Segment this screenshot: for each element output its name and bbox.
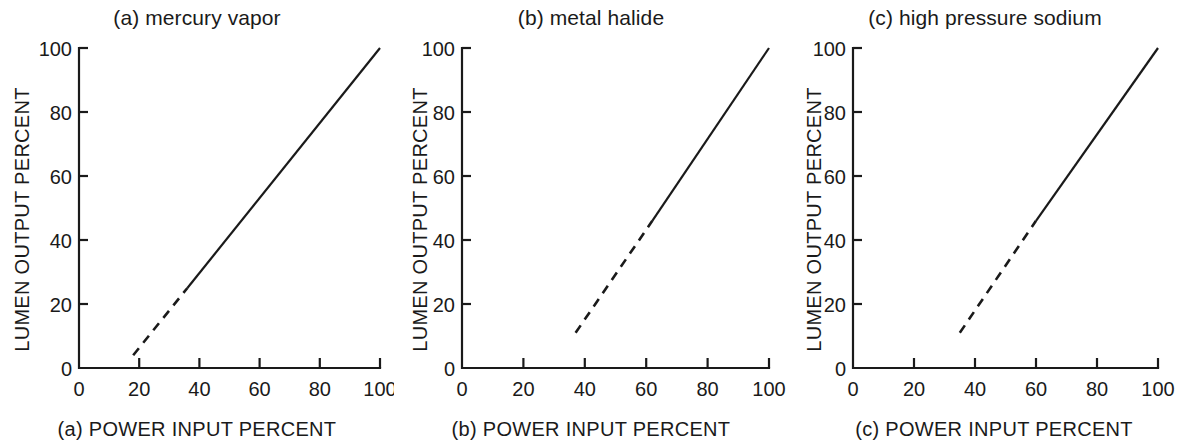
x-tick-label: 80 [696, 378, 718, 400]
y-tick-label: 0 [444, 358, 455, 380]
plot-area-a: 100 80 60 40 20 0 0 20 40 60 80 100 [0, 0, 394, 447]
x-tick-label: 40 [964, 378, 986, 400]
data-series-a [133, 48, 380, 355]
x-tick-label: 0 [847, 378, 858, 400]
y-axis-label-c: LUMEN OUTPUT PERCENT [803, 70, 826, 370]
y-tick-label: 100 [422, 38, 455, 60]
y-axis-label-a: LUMEN OUTPUT PERCENT [11, 70, 34, 370]
axes-a [79, 48, 380, 368]
series-line-solid [652, 48, 769, 221]
x-tick-label: 100 [752, 378, 785, 400]
plot-area-c: 100 80 60 40 20 0 0 20 40 60 80 100 [788, 0, 1182, 447]
y-tick-label: 80 [50, 102, 72, 124]
plot-svg-c: 100 80 60 40 20 0 0 20 40 60 80 100 [788, 0, 1182, 447]
lumen-output-figure: (a) mercury vapor [0, 0, 1182, 447]
x-tick-label: 0 [456, 378, 467, 400]
x-tick-marks-c [914, 358, 1158, 368]
x-tick-label: 80 [1086, 378, 1108, 400]
y-tick-label: 100 [813, 38, 846, 60]
plot-area-b: 100 80 60 40 20 0 0 20 40 60 80 100 [394, 0, 788, 447]
x-tick-label: 0 [73, 378, 84, 400]
y-tick-label: 40 [50, 230, 72, 252]
axes-b [462, 48, 769, 368]
axis-spines-b [462, 48, 769, 368]
x-axis-label-a: (a) POWER INPUT PERCENT [0, 418, 394, 441]
plot-svg-a: 100 80 60 40 20 0 0 20 40 60 80 100 [0, 0, 394, 447]
axis-spines-a [79, 48, 380, 368]
x-tick-label: 40 [188, 378, 210, 400]
y-tick-label: 20 [433, 294, 455, 316]
y-tick-label: 60 [50, 166, 72, 188]
x-tick-label: 20 [903, 378, 925, 400]
x-tick-marks-b [523, 358, 769, 368]
chart-panel-mercury-vapor: (a) mercury vapor [0, 0, 394, 447]
series-line-solid [187, 48, 380, 288]
tick-labels-c: 100 80 60 40 20 0 0 20 40 60 80 100 [813, 38, 1175, 400]
plot-svg-b: 100 80 60 40 20 0 0 20 40 60 80 100 [394, 0, 788, 447]
x-axis-label-c: (c) POWER INPUT PERCENT [788, 418, 1182, 441]
x-axis-label-b: (b) POWER INPUT PERCENT [394, 418, 788, 441]
x-tick-label: 40 [574, 378, 596, 400]
series-line-solid [1036, 48, 1158, 221]
chart-panel-high-pressure-sodium: (c) high pressure sodium [788, 0, 1182, 447]
axis-spines-c [853, 48, 1158, 368]
y-tick-label: 20 [824, 294, 846, 316]
x-tick-label: 20 [128, 378, 150, 400]
y-tick-marks-c [853, 48, 862, 304]
x-tick-label: 100 [363, 378, 394, 400]
y-axis-label-b: LUMEN OUTPUT PERCENT [409, 70, 432, 370]
tick-labels-b: 100 80 60 40 20 0 0 20 40 60 80 100 [422, 38, 786, 400]
y-tick-label: 40 [824, 230, 846, 252]
data-series-c [960, 48, 1158, 333]
y-tick-label: 0 [61, 358, 72, 380]
x-tick-label: 60 [248, 378, 270, 400]
chart-panel-metal-halide: (b) metal halide [394, 0, 788, 447]
y-tick-label: 80 [433, 102, 455, 124]
data-series-b [576, 48, 769, 333]
x-tick-label: 20 [512, 378, 534, 400]
tick-labels-a: 100 80 60 40 20 0 0 20 40 60 80 100 [39, 38, 394, 400]
series-line-dashed [960, 221, 1036, 333]
series-line-dashed [133, 288, 187, 355]
y-tick-label: 20 [50, 294, 72, 316]
y-tick-label: 40 [433, 230, 455, 252]
series-line-dashed [576, 221, 653, 333]
axes-c [853, 48, 1158, 368]
y-tick-label: 100 [39, 38, 72, 60]
y-tick-label: 0 [835, 358, 846, 380]
x-tick-label: 60 [635, 378, 657, 400]
y-tick-label: 60 [824, 166, 846, 188]
y-tick-label: 80 [824, 102, 846, 124]
x-tick-label: 60 [1025, 378, 1047, 400]
x-tick-label: 100 [1141, 378, 1174, 400]
y-tick-marks-b [462, 48, 471, 304]
x-tick-marks-a [139, 358, 380, 368]
y-tick-marks-a [79, 48, 88, 304]
y-tick-label: 60 [433, 166, 455, 188]
x-tick-label: 80 [309, 378, 331, 400]
